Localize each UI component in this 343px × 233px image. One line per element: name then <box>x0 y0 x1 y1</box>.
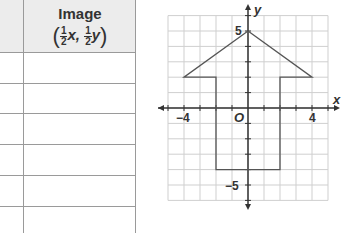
y-axis-down-arrow-icon <box>245 204 251 210</box>
origin-label: O <box>234 110 244 125</box>
x-axis-label: x <box>332 92 341 107</box>
y-tick-label-neg5: −5 <box>225 179 239 193</box>
y-axis-label: y <box>253 2 262 17</box>
y-axis-up-arrow-icon <box>245 4 251 10</box>
x-tick-label-neg4: −4 <box>176 111 190 125</box>
x-axis-left-arrow-icon <box>158 105 164 111</box>
x-tick-label-4: 4 <box>309 111 316 125</box>
y-tick-label-5: 5 <box>235 24 242 38</box>
coordinate-graph: x y O −4 4 5 −5 <box>0 0 343 233</box>
